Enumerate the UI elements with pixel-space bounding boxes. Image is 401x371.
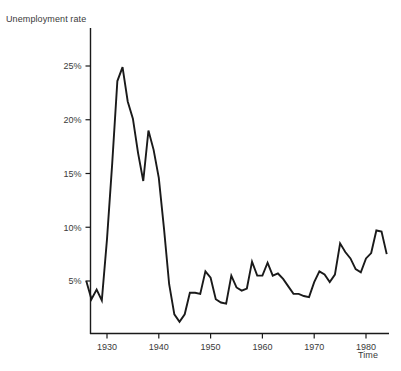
x-tick-label: 1940 xyxy=(149,342,169,352)
plot-area: 5%10%15%20%25% 193019401950196019701980 xyxy=(0,0,401,371)
series-line xyxy=(86,67,386,322)
x-tick-label: 1970 xyxy=(304,342,324,352)
x-tick-label: 1960 xyxy=(252,342,272,352)
unemployment-rate-chart: Unemployment rate Time 5%10%15%20%25% 19… xyxy=(0,0,401,371)
x-tick-label: 1930 xyxy=(97,342,117,352)
x-tick-label: 1950 xyxy=(201,342,221,352)
data-series-group xyxy=(86,67,386,322)
x-axis-title: Time xyxy=(358,350,378,360)
x-axis: 193019401950196019701980 xyxy=(90,334,389,352)
y-tick-label: 15% xyxy=(63,169,81,179)
y-axis: 5%10%15%20%25% xyxy=(63,28,90,334)
y-axis-title: Unemployment rate xyxy=(6,14,86,24)
y-tick-label: 5% xyxy=(68,276,81,286)
y-tick-label: 25% xyxy=(63,61,81,71)
y-tick-label: 20% xyxy=(63,115,81,125)
y-tick-label: 10% xyxy=(63,223,81,233)
